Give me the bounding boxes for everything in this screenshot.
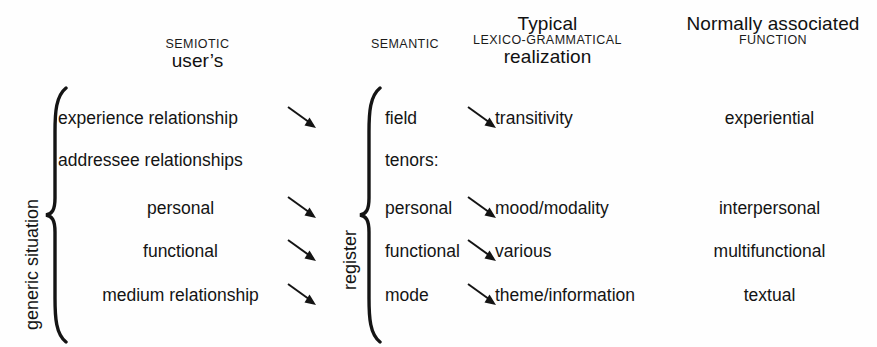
brace-register xyxy=(358,86,384,344)
arrow-situation-to-register-3 xyxy=(286,194,328,228)
header-lexico-grammatical: Typical LEXICO-GRAMMATICAL realization xyxy=(415,14,680,67)
header-semiotic-big: user’s xyxy=(90,51,305,71)
header-function: Normally associated FUNCTION xyxy=(668,14,877,47)
arrow-situation-to-register-4 xyxy=(286,237,328,271)
register-diagram: SEMIOTIC user’s SEMANTIC Typical LEXICO-… xyxy=(0,0,877,347)
situation-item-3: personal xyxy=(58,200,303,218)
arrow-register-to-lexgram-3 xyxy=(466,194,508,228)
function-item-3: interpersonal xyxy=(662,200,877,218)
arrow-situation-to-register-1 xyxy=(286,104,328,138)
arrow-register-to-lexgram-1 xyxy=(466,104,508,138)
function-item-4: multifunctional xyxy=(662,243,877,261)
situation-item-2: addressee relationships xyxy=(58,152,303,170)
function-item-1: experiential xyxy=(662,110,877,128)
function-item-5: textual xyxy=(662,287,877,305)
arrow-register-to-lexgram-4 xyxy=(466,237,508,271)
situation-item-4: functional xyxy=(58,243,303,261)
header-lexgram-big: realization xyxy=(415,47,680,67)
situation-item-1: experience relationship xyxy=(58,110,303,128)
register-item-2: tenors: xyxy=(385,152,485,170)
header-semiotic: SEMIOTIC user’s xyxy=(90,38,305,71)
header-function-top: Normally associated xyxy=(668,14,877,34)
header-function-small: FUNCTION xyxy=(668,34,877,47)
header-lexgram-top: Typical xyxy=(415,14,680,34)
arrow-register-to-lexgram-5 xyxy=(466,281,508,315)
label-generic-situation: generic situation xyxy=(22,199,43,330)
label-register: register xyxy=(340,230,361,290)
arrow-situation-to-register-5 xyxy=(286,281,328,315)
situation-item-5: medium relationship xyxy=(58,287,303,305)
